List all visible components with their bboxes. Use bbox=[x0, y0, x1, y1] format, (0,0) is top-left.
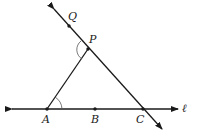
angle-arc-p bbox=[77, 41, 82, 59]
segment-ap bbox=[47, 49, 88, 109]
label-a: A bbox=[42, 114, 50, 125]
point-p bbox=[86, 47, 89, 50]
angle-arc-a bbox=[55, 97, 62, 109]
label-q: Q bbox=[68, 11, 77, 22]
geometry-figure: Q P A B C ℓ bbox=[0, 0, 197, 138]
point-q bbox=[67, 24, 70, 27]
label-b: B bbox=[91, 114, 99, 125]
label-line-l: ℓ bbox=[182, 103, 187, 114]
label-p: P bbox=[89, 34, 96, 45]
point-c bbox=[141, 107, 144, 110]
point-a bbox=[45, 107, 48, 110]
label-c: C bbox=[136, 114, 144, 125]
point-b bbox=[93, 107, 96, 110]
